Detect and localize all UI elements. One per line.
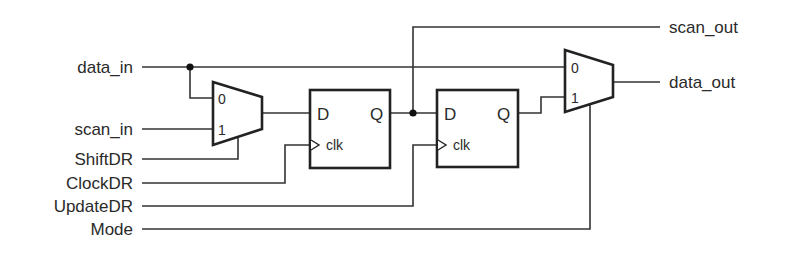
ff2-clk-label: clk: [453, 137, 471, 153]
label-scan-out: scan_out: [669, 18, 738, 37]
ff2-d-label: D: [444, 105, 456, 124]
wire-clockdr: [142, 145, 310, 183]
ff1-q-label: Q: [370, 105, 383, 124]
mux2: 0 1: [565, 50, 613, 112]
label-scan-in: scan_in: [74, 120, 133, 139]
label-clockdr: ClockDR: [66, 174, 133, 193]
flip-flop-1: D Q clk: [310, 90, 390, 168]
mux1-pin1-label: 1: [218, 122, 226, 138]
junction-dot-ff1-q: [409, 109, 416, 116]
mux1-pin0-label: 0: [218, 91, 226, 107]
label-shiftdr: ShiftDR: [74, 150, 133, 169]
wire-data-in-branch: [190, 67, 213, 98]
wire-ff2-q: [518, 97, 565, 113]
label-data-out: data_out: [669, 73, 735, 92]
label-mode: Mode: [90, 220, 133, 239]
mux2-pin0-label: 0: [571, 60, 579, 76]
label-data-in: data_in: [77, 58, 133, 77]
mux1: 0 1: [213, 82, 262, 145]
flip-flop-2: D Q clk: [437, 90, 518, 167]
ff2-q-label: Q: [497, 105, 510, 124]
boundary-scan-diagram: data_in scan_in ShiftDR ClockDR UpdateDR…: [0, 0, 789, 255]
ff1-clk-label: clk: [326, 137, 344, 153]
ff1-d-label: D: [317, 105, 329, 124]
mux2-pin1-label: 1: [571, 90, 579, 106]
wire-updatedr: [142, 145, 437, 206]
label-updatedr: UpdateDR: [54, 197, 133, 216]
junction-dot-data-in: [186, 63, 193, 70]
